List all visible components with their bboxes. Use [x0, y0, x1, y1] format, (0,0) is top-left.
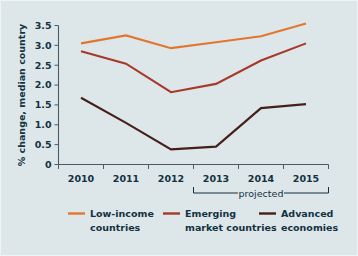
y-tick-label: 2.0 — [35, 79, 52, 90]
series-line-2 — [81, 98, 306, 150]
y-tick-label: 2.5 — [35, 60, 52, 71]
legend-label-0-line2: countries — [90, 222, 141, 233]
legend-label-1-line2: market countries — [185, 222, 277, 233]
series-line-1 — [81, 43, 306, 92]
projected-bracket-left — [194, 187, 239, 193]
line-chart: 00.51.01.52.02.53.03.5201020112012201320… — [1, 1, 358, 256]
y-tick-label: 3.0 — [35, 40, 52, 51]
y-axis-title: % change, median country — [16, 23, 27, 166]
x-tick-label: 2012 — [158, 173, 184, 184]
projected-label: projected — [239, 188, 284, 199]
legend-label-1: Emerging — [185, 208, 236, 219]
x-tick-label: 2011 — [113, 173, 139, 184]
y-tick-label: 1.0 — [35, 119, 52, 130]
y-tick-label: 0.5 — [35, 139, 52, 150]
chart-figure: 00.51.01.52.02.53.03.5201020112012201320… — [0, 0, 358, 256]
x-tick-label: 2010 — [68, 173, 95, 184]
y-tick-label: 3.5 — [35, 20, 52, 31]
legend-label-2: Advanced — [281, 208, 333, 219]
series-line-0 — [81, 24, 306, 49]
legend-label-2-line2: economies — [281, 222, 338, 233]
projected-bracket-right — [284, 187, 329, 193]
y-tick-label: 1.5 — [35, 99, 52, 110]
legend-label-0: Low-income — [90, 208, 154, 219]
x-tick-label: 2013 — [203, 173, 229, 184]
x-tick-label: 2014 — [248, 173, 275, 184]
x-tick-label: 2015 — [293, 173, 319, 184]
y-tick-label: 0 — [45, 159, 52, 170]
